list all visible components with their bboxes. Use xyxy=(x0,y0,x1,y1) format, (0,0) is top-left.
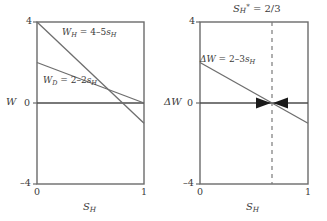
x-axis-label-main: S xyxy=(246,201,253,212)
equation-deltaw-body: = 2–3 xyxy=(216,54,245,64)
equation-wd-body: = 2–2 xyxy=(57,75,86,85)
y-tick-bottom: –4 xyxy=(183,178,194,188)
x-tick-left: 0 xyxy=(197,187,203,197)
x-tick-right: 1 xyxy=(305,187,311,197)
equation-wh-var-sub: H xyxy=(111,31,117,39)
line-series-deltaw xyxy=(200,63,308,124)
equation-wd: WD = 2–2sH xyxy=(43,76,97,86)
figure-container: W 0 4 –4 0 1 SH WH = 4–5sH WD = 2–2sH xyxy=(0,0,327,221)
y-tick-bottom: –4 xyxy=(20,178,31,188)
y-axis-label: W xyxy=(6,97,16,107)
equation-wh-body: = 4–5 xyxy=(77,27,106,37)
equilibrium-label-main: S xyxy=(233,3,240,14)
x-axis-label-sub: H xyxy=(253,205,259,214)
x-axis-label: SH xyxy=(83,202,96,213)
x-axis-label-sub: H xyxy=(90,205,96,214)
y-tick-zero: 0 xyxy=(187,98,193,108)
equation-wd-var-sub: H xyxy=(91,79,97,87)
y-tick-top: 4 xyxy=(189,16,195,26)
chart-panel-right: ΔW 0 4 –4 0 1 SH SH* = 2/3 ΔW = 2–3sH xyxy=(164,0,327,221)
x-tick-left: 0 xyxy=(34,187,40,197)
y-axis-label: ΔW xyxy=(164,97,182,107)
arrow-left-pointing-icon xyxy=(273,98,288,109)
equation-wh: WH = 4–5sH xyxy=(62,28,116,38)
equation-wh-main: W xyxy=(62,27,71,37)
y-tick-top: 4 xyxy=(26,16,32,26)
equilibrium-label-body: = 2/3 xyxy=(250,3,281,14)
equation-deltaw: ΔW = 2–3sH xyxy=(200,55,255,65)
equation-deltaw-main: ΔW xyxy=(200,54,216,64)
x-tick-right: 1 xyxy=(141,187,147,197)
arrow-right-pointing-icon xyxy=(256,98,271,109)
equation-deltaw-var-sub: H xyxy=(250,58,256,66)
equation-wd-main: W xyxy=(43,75,52,85)
x-axis-label-main: S xyxy=(83,201,90,212)
x-axis-label: SH xyxy=(246,202,259,213)
equilibrium-label: SH* = 2/3 xyxy=(233,3,281,15)
chart-panel-left: W 0 4 –4 0 1 SH WH = 4–5sH WD = 2–2sH xyxy=(0,0,163,221)
y-tick-zero: 0 xyxy=(24,98,30,108)
